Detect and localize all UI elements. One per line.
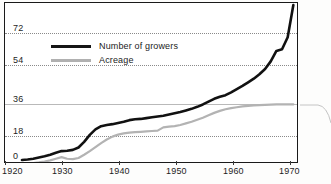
series-line-growers — [22, 5, 293, 160]
x-tick-1960 — [233, 161, 234, 165]
series-layer — [5, 3, 298, 163]
page-curl-line — [300, 105, 331, 123]
x-tick-1970 — [290, 161, 291, 165]
chart-figure: 72 54 36 18 0 Number of growers Acreage — [0, 0, 331, 184]
x-tick-label-1920: 1920 — [2, 167, 23, 176]
x-tick-1950 — [176, 161, 177, 165]
x-tick-label-1950: 1950 — [166, 167, 187, 176]
x-tick-1940 — [119, 161, 120, 165]
page-edge-artifact — [300, 92, 331, 126]
series-line-acreage — [22, 104, 293, 163]
x-tick-1920 — [5, 161, 6, 165]
x-axis: 1920 1930 1940 1950 1960 1970 — [0, 165, 331, 184]
x-tick-label-1970: 1970 — [279, 167, 300, 176]
x-tick-1930 — [62, 161, 63, 165]
x-tick-label-1940: 1940 — [109, 167, 130, 176]
x-tick-label-1960: 1960 — [223, 167, 244, 176]
x-tick-label-1930: 1930 — [52, 167, 73, 176]
plot-area: 72 54 36 18 0 Number of growers Acreage — [4, 2, 298, 163]
